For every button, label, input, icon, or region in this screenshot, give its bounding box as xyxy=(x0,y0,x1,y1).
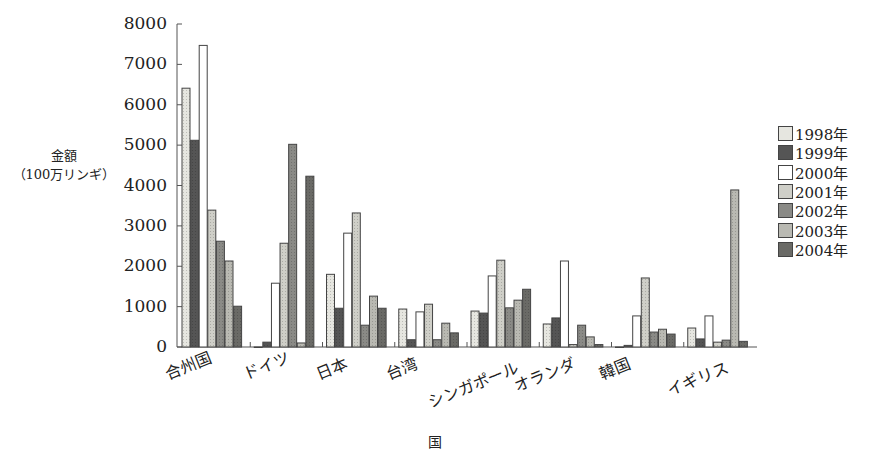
legend-item: 2002年 xyxy=(778,201,848,220)
bar xyxy=(234,306,242,347)
bar xyxy=(514,300,522,347)
bar xyxy=(488,276,496,347)
axes xyxy=(177,24,757,347)
legend-label: 2002年 xyxy=(795,200,848,221)
bar xyxy=(480,313,488,347)
legend-swatch xyxy=(778,145,793,160)
bar xyxy=(667,334,675,347)
bar xyxy=(208,210,216,347)
bar xyxy=(595,345,603,347)
bar xyxy=(216,241,224,347)
bar xyxy=(425,304,433,347)
bar xyxy=(442,323,450,347)
bar xyxy=(722,340,730,347)
bar xyxy=(471,311,479,347)
bar xyxy=(433,340,441,347)
legend-item: 1999年 xyxy=(778,143,848,162)
bar xyxy=(696,339,704,347)
bar xyxy=(739,341,747,347)
bar xyxy=(560,261,568,347)
bar xyxy=(523,289,531,347)
bar xyxy=(225,261,233,347)
legend-label: 2003年 xyxy=(795,220,848,241)
bar xyxy=(659,329,667,347)
bar xyxy=(650,332,658,347)
bar xyxy=(616,347,624,348)
bar xyxy=(370,296,378,347)
bar xyxy=(182,88,190,347)
legend-swatch xyxy=(778,203,793,218)
bar xyxy=(624,345,632,347)
bar xyxy=(641,278,649,347)
bar xyxy=(543,324,551,347)
legend-label: 1998年 xyxy=(795,123,848,144)
legend-item: 1998年 xyxy=(778,124,848,143)
legend-swatch xyxy=(778,184,793,199)
bar xyxy=(505,308,513,347)
bar xyxy=(191,140,199,347)
bar xyxy=(289,144,297,347)
legend-label: 2001年 xyxy=(795,181,848,202)
bar xyxy=(378,308,386,347)
legend-swatch xyxy=(778,126,793,141)
legend: 1998年1999年2000年2001年2002年2003年2004年 xyxy=(778,124,848,259)
bar xyxy=(688,328,696,347)
bar xyxy=(297,343,305,347)
x-axis-label: 国 xyxy=(428,431,442,451)
bar xyxy=(552,318,560,347)
bar xyxy=(407,340,415,347)
legend-label: 1999年 xyxy=(795,142,848,163)
bar xyxy=(578,325,586,347)
legend-label: 2004年 xyxy=(795,239,848,260)
bar xyxy=(335,308,343,347)
bar xyxy=(271,283,279,347)
legend-swatch xyxy=(778,165,793,180)
bar xyxy=(327,274,335,347)
bar xyxy=(352,213,360,347)
legend-swatch xyxy=(778,223,793,238)
legend-label: 2000年 xyxy=(795,162,848,183)
legend-item: 2004年 xyxy=(778,240,848,259)
bar xyxy=(361,325,369,347)
bar xyxy=(199,45,207,347)
bar xyxy=(399,309,407,347)
legend-item: 2001年 xyxy=(778,182,848,201)
bar xyxy=(497,260,505,347)
legend-item: 2000年 xyxy=(778,163,848,182)
bar xyxy=(705,316,713,347)
bar xyxy=(569,345,577,347)
bar xyxy=(254,347,262,348)
bar-chart: 金額 （100万リンギ） 010002000300040005000600070… xyxy=(0,0,869,459)
bar xyxy=(731,190,739,347)
legend-swatch xyxy=(778,242,793,257)
bar xyxy=(263,342,271,347)
bar xyxy=(416,312,424,347)
bar xyxy=(450,333,458,347)
bar xyxy=(280,243,288,347)
bar xyxy=(714,342,722,347)
bar xyxy=(344,233,352,347)
bar xyxy=(586,337,594,347)
legend-item: 2003年 xyxy=(778,220,848,239)
bar xyxy=(633,316,641,347)
bar xyxy=(306,176,314,347)
